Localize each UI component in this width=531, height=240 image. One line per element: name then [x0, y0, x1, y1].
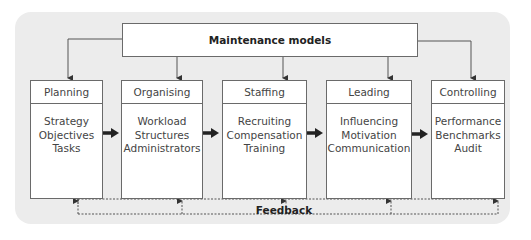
function-title: Controlling	[432, 81, 504, 104]
feedback-label: Feedback	[244, 204, 324, 216]
function-box-organising: Organising Workload Structures Administr…	[121, 80, 203, 199]
function-title: Staffing	[223, 81, 306, 104]
function-box-staffing: Staffing Recruiting Compensation Trainin…	[222, 80, 307, 199]
function-item: Workload	[137, 115, 186, 129]
function-item: Training	[244, 142, 285, 156]
function-item: Objectives	[39, 129, 94, 143]
maintenance-models-box: Maintenance models	[122, 23, 418, 57]
function-title: Organising	[122, 81, 202, 104]
function-item: Compensation	[227, 129, 303, 143]
function-item: Tasks	[52, 142, 80, 156]
function-title: Planning	[31, 81, 102, 104]
function-box-planning: Planning Strategy Objectives Tasks	[30, 80, 103, 199]
function-item: Structures	[135, 129, 189, 143]
function-item: Administrators	[123, 142, 200, 156]
function-item: Audit	[454, 142, 482, 156]
function-item: Influencing	[340, 115, 398, 129]
function-box-controlling: Controlling Performance Benchmarks Audit	[431, 80, 505, 199]
function-item: Communication	[328, 142, 411, 156]
function-item: Benchmarks	[435, 129, 500, 143]
function-item: Recruiting	[238, 115, 291, 129]
function-box-leading: Leading Influencing Motivation Communica…	[326, 80, 412, 199]
function-item: Strategy	[44, 115, 89, 129]
function-title: Leading	[327, 81, 411, 104]
function-item: Motivation	[341, 129, 396, 143]
function-item: Performance	[435, 115, 502, 129]
maintenance-models-label: Maintenance models	[209, 34, 331, 46]
